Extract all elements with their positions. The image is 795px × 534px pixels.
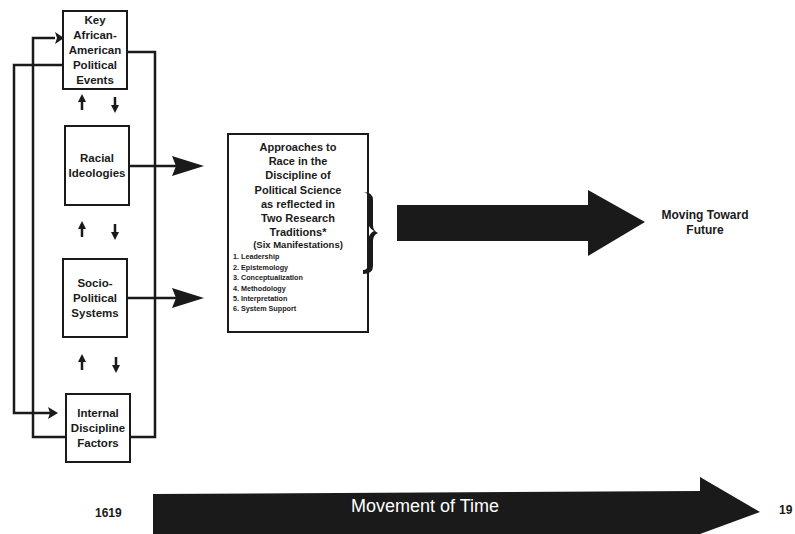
future-label: Moving Toward Future — [650, 208, 760, 238]
manifestations-list: 1. Leadership 2. Epistemology 3. Concept… — [233, 252, 363, 314]
box-label: Key African- American Political Events — [69, 13, 121, 88]
feedback-loop-inner — [33, 38, 65, 437]
list-item: 2. Epistemology — [233, 263, 363, 273]
box-label: Racial Ideologies — [69, 151, 126, 181]
feedback-loop-right — [128, 52, 155, 437]
box-racial-ideologies: Racial Ideologies — [64, 125, 130, 206]
list-item: 6. System Support — [233, 304, 363, 314]
center-box-subtitle: (Six Manifestations) — [233, 239, 363, 251]
box-approaches-to-race: Approaches to Race in the Discipline of … — [227, 133, 369, 333]
list-item: 1. Leadership — [233, 252, 363, 262]
center-box-title: Approaches to Race in the Discipline of … — [233, 140, 363, 239]
list-item: 5. Interpretation — [233, 294, 363, 304]
list-item: 4. Methodology — [233, 284, 363, 294]
box-internal-discipline-factors: Internal Discipline Factors — [65, 393, 131, 463]
end-year: 19 — [779, 503, 792, 517]
start-year: 1619 — [95, 506, 122, 520]
feedback-loop-outer — [14, 65, 62, 413]
box-label: Internal Discipline Factors — [71, 406, 125, 451]
list-item: 3. Conceptualization — [233, 273, 363, 283]
box-socio-political-systems: Socio- Political Systems — [62, 258, 128, 338]
arrow-to-future — [397, 190, 645, 256]
arrow-racial-to-center — [172, 156, 204, 176]
timeline-label: Movement of Time — [300, 496, 550, 517]
box-label: Socio- Political Systems — [71, 276, 118, 321]
arrow-socio-to-center — [172, 288, 204, 308]
box-key-political-events: Key African- American Political Events — [62, 10, 128, 90]
